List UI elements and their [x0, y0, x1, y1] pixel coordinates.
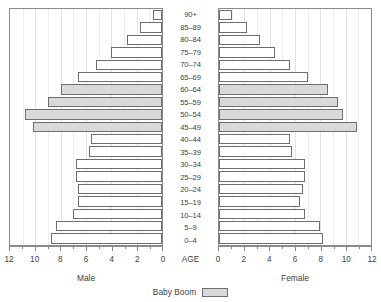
axis-tick: [35, 246, 36, 251]
axis-tick: [371, 246, 372, 251]
bar-female-20-24: [219, 184, 303, 194]
bar-male-60-64: [61, 84, 162, 94]
axis-tick: [282, 246, 283, 249]
bar-male-5-9: [56, 221, 162, 231]
x-tick-label: 2: [135, 255, 140, 264]
age-group-label: 75–79: [163, 46, 218, 59]
bar-row: [219, 208, 371, 220]
bar-female-30-34: [219, 159, 305, 169]
x-tick-label: 8: [318, 255, 323, 264]
axis-tick: [150, 246, 151, 249]
bar-male-20-24: [78, 184, 162, 194]
bar-row: [219, 96, 371, 108]
male-axis-label: Male: [9, 273, 163, 283]
bar-male-85-89: [140, 22, 162, 32]
age-group-label: 20–24: [163, 183, 218, 196]
bar-female-40-44: [219, 134, 290, 144]
bar-row: [219, 195, 371, 207]
axis-tick: [334, 246, 335, 249]
bar-row: [10, 34, 162, 46]
bar-female-60-64: [219, 84, 328, 94]
axis-tick: [99, 246, 100, 249]
population-pyramid-chart: 90+85–8980–8475–7970–7465–6960–6455–5950…: [0, 0, 381, 302]
x-tick-label: 12: [4, 255, 13, 264]
bar-row: [10, 9, 162, 21]
x-tick-label: 4: [109, 255, 114, 264]
bar-row: [219, 158, 371, 170]
bar-row: [10, 71, 162, 83]
axis-tick: [257, 246, 258, 249]
age-group-label: 55–59: [163, 96, 218, 109]
age-group-label: 65–69: [163, 71, 218, 84]
bar-row: [10, 96, 162, 108]
bar-row: [219, 83, 371, 95]
x-tick-label: 6: [293, 255, 298, 264]
bar-male-90+: [153, 10, 162, 20]
bar-female-15-19: [219, 196, 300, 206]
axis-tick: [125, 246, 126, 249]
bar-male-30-34: [76, 159, 162, 169]
bar-male-50-54: [25, 109, 162, 119]
age-group-label: 70–74: [163, 58, 218, 71]
bar-male-65-69: [78, 72, 162, 82]
x-tick-label: 10: [30, 255, 39, 264]
bar-female-90+: [219, 10, 232, 20]
bar-male-15-19: [78, 196, 162, 206]
bar-male-55-59: [48, 97, 162, 107]
bar-row: [219, 108, 371, 120]
bar-female-0-4: [219, 233, 323, 243]
bar-row: [219, 34, 371, 46]
bar-row: [10, 108, 162, 120]
axis-tick: [308, 246, 309, 249]
bar-row: [10, 145, 162, 157]
bar-row: [219, 9, 371, 21]
bar-male-0-4: [51, 233, 162, 243]
x-tick-label: 12: [367, 255, 376, 264]
age-group-label: 85–89: [163, 21, 218, 34]
axis-tick: [218, 246, 219, 251]
bar-row: [219, 121, 371, 133]
age-group-label: 45–49: [163, 121, 218, 134]
age-group-label: 80–84: [163, 33, 218, 46]
axis-tick: [9, 246, 10, 251]
female-axis-label: Female: [218, 273, 372, 283]
x-tick-label: 0: [216, 255, 221, 264]
axis-tick: [112, 246, 113, 251]
age-group-label: 0–4: [163, 233, 218, 246]
bar-row: [10, 83, 162, 95]
bar-female-50-54: [219, 109, 343, 119]
x-tick-label: 4: [267, 255, 272, 264]
bar-female-35-39: [219, 146, 292, 156]
bar-row: [10, 121, 162, 133]
bar-row: [219, 21, 371, 33]
bar-row: [219, 46, 371, 58]
age-group-label: 30–34: [163, 158, 218, 171]
axis-tick: [231, 246, 232, 249]
chart-legend: Baby Boom: [0, 287, 381, 297]
bar-male-70-74: [96, 60, 162, 70]
bar-row: [10, 232, 162, 244]
bar-row: [10, 208, 162, 220]
bar-row: [219, 220, 371, 232]
bar-male-25-29: [76, 171, 162, 181]
axis-tick: [137, 246, 138, 251]
age-group-label: 90+: [163, 8, 218, 21]
bar-male-10-14: [73, 209, 162, 219]
bar-row: [10, 133, 162, 145]
bar-male-75-79: [111, 47, 162, 57]
bar-male-40-44: [91, 134, 162, 144]
bar-row: [219, 59, 371, 71]
axis-tick: [346, 246, 347, 251]
bar-female-45-49: [219, 122, 357, 132]
age-group-label: 10–14: [163, 208, 218, 221]
bar-row: [10, 21, 162, 33]
bar-row: [10, 220, 162, 232]
age-group-label: 50–54: [163, 108, 218, 121]
age-group-label: 60–64: [163, 83, 218, 96]
axis-tick: [295, 246, 296, 251]
male-bar-rows: [10, 9, 162, 245]
bar-female-75-79: [219, 47, 275, 57]
axis-tick: [60, 246, 61, 251]
bar-row: [219, 71, 371, 83]
x-tick-label: 8: [58, 255, 63, 264]
